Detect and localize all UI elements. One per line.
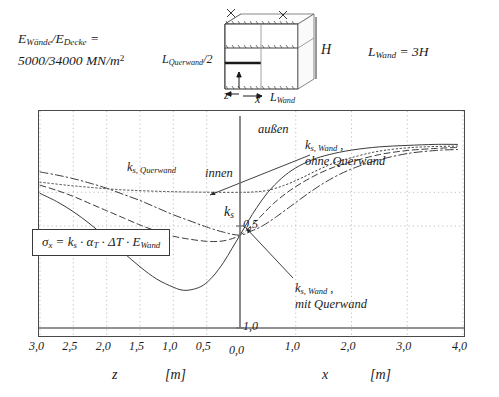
sketch-front-face	[225, 24, 298, 89]
axis-unit-right: [m]	[370, 367, 391, 383]
label-ks-wand-ohne-querwand: ks, Wand , ohne Querwand	[305, 138, 385, 169]
material-ratio-line: EWände/EDecke =	[18, 28, 208, 50]
tick-x-1,0: 1,0	[285, 339, 300, 354]
sketch-right-face	[298, 14, 314, 89]
tick-z-3,0: 3,0	[29, 339, 44, 354]
y-tick-0-5: 0,5	[243, 217, 258, 232]
building-3d-sketch: LQuerwand/2 z x LWand H	[208, 0, 343, 108]
label-ks-wand-mit-querwand: ks, Wand , mit Querwand	[295, 281, 367, 312]
label-aussen: außen	[258, 122, 289, 138]
axis-label-z: z	[112, 367, 117, 383]
tick-z-0,5: 0,5	[196, 339, 211, 354]
tick-z-0,0: 0,0	[229, 343, 244, 358]
stress-formula-box: σx = ks · αT · ΔT · EWand	[32, 229, 170, 256]
tick-x-2,0: 2,0	[341, 339, 356, 354]
sketch-label-H: H	[321, 42, 331, 58]
label-innen: innen	[205, 166, 233, 182]
tick-x-3,0: 3,0	[396, 339, 411, 354]
tick-z-2,0: 2,0	[96, 339, 111, 354]
lwand-relation-note: LWand = 3H	[368, 44, 428, 60]
sketch-label-lquerwand: LQuerwand/2	[162, 52, 212, 67]
axis-label-x: x	[322, 367, 328, 383]
tick-z-1,0: 1,0	[162, 339, 177, 354]
sketch-label-lwand: LWand	[270, 90, 295, 105]
tick-z-1,5: 1,5	[129, 339, 144, 354]
sketch-label-z: z	[224, 88, 229, 103]
y-tick-1-0: 1,0	[243, 319, 258, 334]
axis-unit-left: [m]	[165, 367, 186, 383]
sketch-label-x: x	[255, 92, 260, 107]
tick-z-2,5: 2,5	[62, 339, 77, 354]
tick-x-4,0: 4,0	[452, 339, 467, 354]
label-ks-querwand: ks, Querwand	[127, 160, 176, 176]
y-axis-label-ks: ks	[224, 203, 234, 222]
